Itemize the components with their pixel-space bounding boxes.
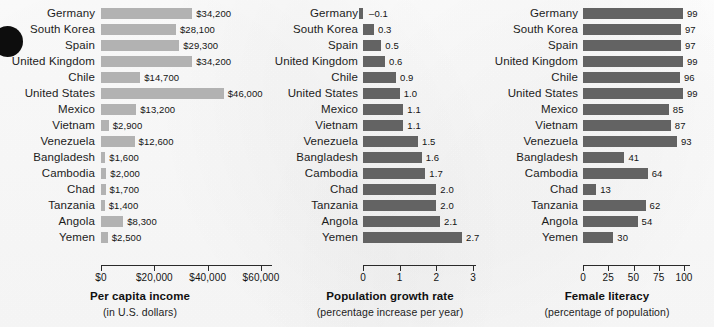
- bar: [363, 40, 381, 51]
- chart-female-literacy: Germany99South Korea97Spain97United King…: [500, 0, 714, 327]
- bar-row: Vietnam87: [500, 118, 714, 134]
- bar-value-label: 97: [685, 22, 696, 38]
- category-label: South Korea: [30, 22, 95, 38]
- bar: [101, 216, 123, 227]
- bar-row: Chad2.0: [280, 182, 500, 198]
- bar-value-label: 1.6: [426, 150, 440, 166]
- category-label: Vietnam: [535, 118, 578, 134]
- bar-value-label: 99: [687, 6, 698, 22]
- axis-tick-label: 2: [433, 272, 439, 283]
- bar-value-label: 1.7: [429, 166, 443, 182]
- bar-row: United Kingdom0.6: [280, 54, 500, 70]
- category-label: Germany: [310, 6, 358, 22]
- axis-tick-label: 100: [676, 272, 693, 283]
- bar-row: South Korea97: [500, 22, 714, 38]
- category-label: Vietnam: [315, 118, 358, 134]
- category-label: Tanzania: [311, 198, 358, 214]
- bar: [583, 56, 683, 67]
- bar: [363, 56, 385, 67]
- bar: [363, 232, 462, 243]
- bar: [583, 152, 624, 163]
- category-label: Spain: [328, 38, 358, 54]
- bar: [101, 200, 105, 211]
- bar-value-label: 0.6: [389, 54, 403, 70]
- bar: [583, 40, 681, 51]
- bar-value-label: 1.0: [404, 86, 418, 102]
- bar: [101, 120, 109, 131]
- bar-row: United States$46,000: [0, 86, 280, 102]
- bar: [101, 72, 140, 83]
- bar-row: South Korea$28,100: [0, 22, 280, 38]
- bar-row: Angola54: [500, 214, 714, 230]
- axis-tick: [659, 266, 660, 271]
- category-label: Venezuela: [303, 134, 358, 150]
- growth-title: Population growth rate: [280, 290, 500, 302]
- bar: [583, 88, 683, 99]
- category-label: Chile: [331, 70, 358, 86]
- axis-tick: [684, 266, 685, 271]
- bar-value-label: $2,900: [113, 118, 143, 134]
- bar: [363, 184, 436, 195]
- bar-value-label: 85: [673, 102, 684, 118]
- bar-row: Spain0.5: [280, 38, 500, 54]
- axis-tick-label: 1: [397, 272, 403, 283]
- category-label: Cambodia: [525, 166, 578, 182]
- bar-row: Angola2.1: [280, 214, 500, 230]
- bar-row: United States1.0: [280, 86, 500, 102]
- bar: [363, 168, 425, 179]
- bar-value-label: $12,600: [139, 134, 174, 150]
- category-label: Chad: [550, 182, 578, 198]
- bar-row: Cambodia64: [500, 166, 714, 182]
- bar-row: Chile96: [500, 70, 714, 86]
- category-label: United Kingdom: [12, 54, 95, 70]
- income-subtitle: (in U.S. dollars): [0, 306, 280, 318]
- bar-row: Mexico$13,200: [0, 102, 280, 118]
- category-label: Bangladesh: [33, 150, 95, 166]
- bar: [101, 152, 105, 163]
- bar-value-label: 2.0: [440, 182, 454, 198]
- chart-population-growth-rate: Germany–0.1South Korea0.3Spain0.5United …: [280, 0, 500, 327]
- bar-value-label: 41: [628, 150, 639, 166]
- bar-value-label: 13: [600, 182, 611, 198]
- bar-value-label: $8,300: [127, 214, 157, 230]
- bar-row: South Korea0.3: [280, 22, 500, 38]
- bar-row: Germany99: [500, 6, 714, 22]
- bar-value-label: 64: [652, 166, 663, 182]
- bar-row: Bangladesh41: [500, 150, 714, 166]
- bar-value-label: 97: [685, 38, 696, 54]
- category-label: Angola: [322, 214, 358, 230]
- bar-value-label: 99: [687, 86, 698, 102]
- category-label: Chile: [551, 70, 578, 86]
- bar: [363, 72, 396, 83]
- growth-subtitle: (percentage increase per year): [280, 306, 500, 318]
- bar: [583, 104, 669, 115]
- bar-row: Yemen$2,500: [0, 230, 280, 246]
- bar: [363, 104, 403, 115]
- category-label: Germany: [47, 6, 95, 22]
- category-label: Venezuela: [40, 134, 95, 150]
- axis-tick-label: $20,000: [136, 272, 173, 283]
- category-label: Tanzania: [48, 198, 95, 214]
- bar-row: Chile$14,700: [0, 70, 280, 86]
- bar-value-label: 87: [675, 118, 686, 134]
- bar: [101, 56, 192, 67]
- bar: [363, 216, 440, 227]
- axis-tick: [261, 266, 262, 271]
- axis-tick-label: $0: [95, 272, 106, 283]
- bar-row: Germany–0.1: [280, 6, 500, 22]
- bar: [363, 200, 436, 211]
- bar-row: Vietnam1.1: [280, 118, 500, 134]
- bar: [359, 8, 363, 19]
- bar-value-label: 0.5: [385, 38, 399, 54]
- bar-row: Yemen30: [500, 230, 714, 246]
- bar-row: Bangladesh1.6: [280, 150, 500, 166]
- category-label: United Kingdom: [495, 54, 578, 70]
- category-label: Vietnam: [52, 118, 95, 134]
- bar-value-label: $29,300: [183, 38, 218, 54]
- bar-row: Mexico1.1: [280, 102, 500, 118]
- category-label: United States: [508, 86, 578, 102]
- bar-row: United Kingdom99: [500, 54, 714, 70]
- chart-per-capita-income: Germany$34,200South Korea$28,100Spain$29…: [0, 0, 280, 327]
- axis-tick: [154, 266, 155, 271]
- bar: [101, 24, 176, 35]
